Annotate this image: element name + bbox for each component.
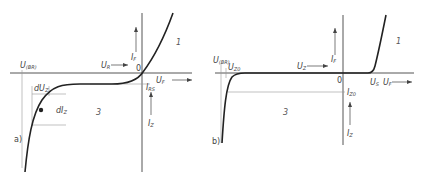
operating-point-a: [39, 108, 43, 112]
breakdown-voltage-label-a: U(BR): [20, 61, 37, 70]
panel-b: U(BR) UZ0 UZ IF 0 US UF IZ0 IZ 1 3 b): [212, 15, 414, 146]
zener-current-label-b: IZ0: [347, 88, 356, 97]
panel-label-a: a): [14, 135, 22, 144]
origin-label-b: 0: [337, 76, 342, 85]
region-forward-label-a: 1: [176, 38, 181, 47]
threshold-voltage-label-b: US: [370, 78, 380, 87]
origin-label-a: 0: [136, 64, 141, 73]
region-reverse-label-a: 3: [96, 108, 101, 117]
forward-voltage-label-b: UF: [383, 78, 392, 87]
region-reverse-label-b: 3: [283, 108, 288, 117]
panel-a: U(BR) dUZ dIZ UR IF 0 UF IRS IZ 1 3 a): [10, 13, 192, 172]
diode-characteristic-diagram: U(BR) dUZ dIZ UR IF 0 UF IRS IZ 1 3 a) U…: [0, 0, 423, 180]
zener-voltage-label-b: UZ0: [228, 63, 240, 72]
reverse-current-label-a: IZ: [148, 119, 154, 128]
zener-di-label-a: dIZ: [56, 106, 67, 115]
forward-current-label-a: IF: [131, 53, 136, 62]
panel-label-b: b): [212, 137, 220, 146]
reverse-voltage-label-b: UZ: [297, 62, 307, 71]
reverse-saturation-current-label-a: IRS: [146, 83, 156, 92]
zener-du-label-a: dUZ: [34, 84, 49, 93]
reverse-current-label-b: IZ: [347, 129, 353, 138]
region-forward-label-b: 1: [396, 37, 401, 46]
reverse-voltage-label-a: UR: [101, 61, 110, 70]
forward-voltage-label-a: UF: [156, 76, 165, 85]
characteristic-curve-b: [222, 15, 386, 143]
forward-current-label-b: IF: [331, 55, 336, 64]
